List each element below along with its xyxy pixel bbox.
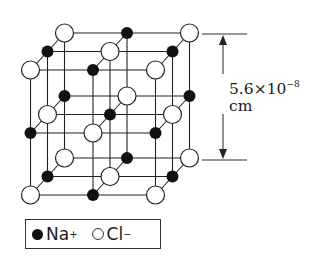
na-ion-icon — [150, 127, 162, 139]
cl-ion-icon — [22, 186, 40, 204]
cl-ion-icon — [101, 168, 119, 186]
cl-ion-icon — [22, 61, 40, 79]
dimension-value-line: 5.6×10−8 — [229, 76, 300, 98]
arrow-up-icon — [219, 35, 227, 45]
cl-ion-icon — [181, 149, 199, 167]
dimension-base: 10 — [267, 80, 287, 98]
na-ion-icon — [87, 189, 99, 201]
na-ion-icon — [121, 27, 133, 39]
arrow-down-icon — [219, 149, 227, 159]
cl-ion-icon — [39, 106, 57, 124]
cl-ion-icon — [56, 149, 74, 167]
cl-ion-icon — [147, 186, 165, 204]
cl-ion-icon — [164, 106, 182, 124]
dimension-times: × — [254, 80, 267, 98]
na-ion-icon — [184, 90, 196, 102]
dimension-label: 5.6×10−8 cm — [229, 74, 300, 117]
na-ion-icon — [59, 90, 71, 102]
legend-charge-cl: − — [123, 229, 131, 240]
na-ion-icon — [104, 109, 116, 121]
legend-label-cl: Cl — [107, 224, 124, 244]
na-ion-icon — [25, 127, 37, 139]
legend-label-na: Na — [46, 224, 69, 244]
na-ion-icon — [42, 46, 54, 58]
dimension-unit: cm — [229, 98, 300, 115]
cl-ion-icon — [181, 24, 199, 42]
legend-charge-na: + — [69, 229, 77, 240]
cl-ion-icon — [101, 43, 119, 61]
cl-ion-icon — [147, 61, 165, 79]
na-ion-icon — [167, 171, 179, 183]
cl-ion-icon — [56, 24, 74, 42]
na-ion-icon — [42, 171, 54, 183]
dimension-exponent: −8 — [286, 79, 299, 89]
open-circle-icon — [92, 228, 104, 240]
na-ion-icon — [167, 46, 179, 58]
na-ion-icon — [87, 64, 99, 76]
legend-box: Na+ Cl− — [25, 219, 161, 249]
na-ion-icon — [121, 152, 133, 164]
dimension-value: 5.6 — [229, 80, 254, 98]
cl-ion-icon — [118, 87, 136, 105]
filled-circle-icon — [32, 229, 43, 240]
cl-ion-icon — [84, 124, 102, 142]
lattice-ions — [22, 24, 199, 204]
